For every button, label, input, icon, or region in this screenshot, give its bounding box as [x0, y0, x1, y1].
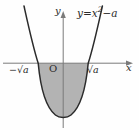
equation-constant: a [111, 7, 117, 19]
y-axis-label: y [55, 6, 61, 16]
root-positive-label: √a [87, 65, 99, 75]
root-negative-label: −√a [9, 65, 29, 75]
math-figure: y=x2−a y x O −√a √a [0, 0, 139, 130]
equation-minus: − [102, 7, 111, 19]
x-axis-label: x [126, 63, 132, 73]
curve-equation-label: y=x2−a [77, 6, 118, 18]
equation-equals: = [83, 7, 92, 19]
y-axis-arrow [61, 11, 66, 18]
origin-label: O [49, 64, 57, 74]
